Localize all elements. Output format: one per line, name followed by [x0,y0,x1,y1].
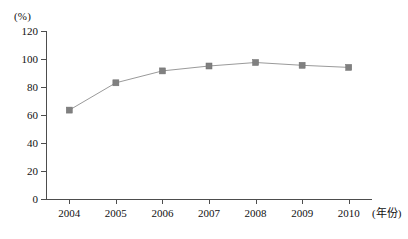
data-point-marker [206,63,212,69]
data-point-marker [346,64,352,70]
data-point-marker [113,80,119,86]
line-chart: (%) 020406080100120 20042005200620072008… [0,0,408,239]
data-point-marker [159,68,165,74]
data-point-marker [66,107,72,113]
plot-area [0,0,408,239]
data-point-marker [299,62,305,68]
data-point-marker [253,60,259,66]
series-line [69,63,348,111]
